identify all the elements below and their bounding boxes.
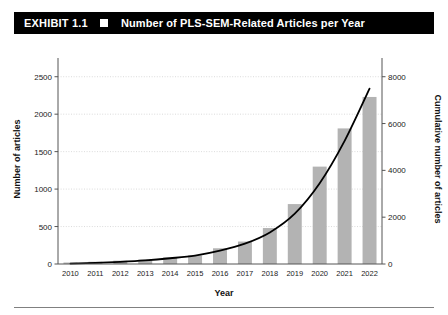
x-axis-tick-label-2013: 2013 (137, 269, 154, 278)
exhibit-number-label: EXHIBIT 1.1 (24, 17, 88, 29)
x-axis-tick-label-2012: 2012 (112, 269, 129, 278)
y-axis-left-tick-label: 0 (48, 260, 53, 269)
bottom-divider (14, 307, 434, 308)
x-axis-tick-label-2022: 2022 (361, 269, 378, 278)
x-axis-tick-label-2016: 2016 (212, 269, 229, 278)
bar-2022 (363, 97, 377, 264)
y-axis-right-tick-label: 0 (388, 260, 393, 269)
y-axis-left-title: Number of articles (12, 99, 22, 219)
y-axis-right-tick-label: 2000 (388, 213, 406, 222)
x-axis-tick-label-2011: 2011 (87, 269, 103, 278)
y-axis-left-tick-label: 1000 (34, 185, 52, 194)
exhibit-title-label: Number of PLS-SEM-Related Articles per Y… (121, 17, 365, 29)
white-square-icon (100, 19, 108, 27)
y-axis-right-tick-label: 4000 (388, 166, 406, 175)
x-axis-tick-label-2021: 2021 (336, 269, 353, 278)
x-axis-tick-label-2017: 2017 (237, 269, 254, 278)
bar-2020 (313, 167, 327, 264)
x-axis-tick-label-2020: 2020 (311, 269, 328, 278)
y-axis-left-tick-label: 2000 (34, 110, 52, 119)
chart-svg: 0500100015002000250002000400060008000201… (0, 34, 448, 284)
x-axis-tick-label-2018: 2018 (262, 269, 279, 278)
x-axis-title: Year (0, 288, 448, 298)
y-axis-left-tick-label: 2500 (34, 73, 52, 82)
exhibit-figure: EXHIBIT 1.1 Number of PLS-SEM-Related Ar… (0, 0, 448, 315)
x-axis-tick-label-2014: 2014 (162, 269, 179, 278)
x-axis-tick-label-2019: 2019 (286, 269, 303, 278)
y-axis-right-title: Cumulative number of articles (433, 94, 443, 224)
exhibit-header-bar: EXHIBIT 1.1 Number of PLS-SEM-Related Ar… (14, 12, 434, 34)
y-axis-left-tick-label: 1500 (34, 148, 52, 157)
x-axis-tick-label-2010: 2010 (62, 269, 79, 278)
y-axis-right-tick-label: 8000 (388, 73, 406, 82)
chart-plot-area: 0500100015002000250002000400060008000201… (0, 34, 448, 284)
x-axis-tick-label-2015: 2015 (187, 269, 204, 278)
y-axis-left-tick-label: 500 (39, 223, 53, 232)
y-axis-right-tick-label: 6000 (388, 120, 406, 129)
